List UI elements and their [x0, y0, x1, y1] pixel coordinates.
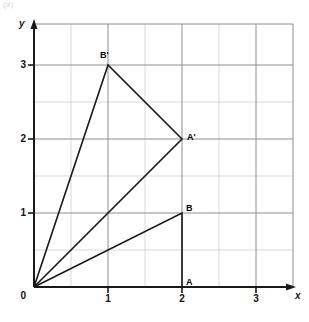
x-tick-label-3: 3	[249, 294, 263, 304]
coordinate-geometry-figure: (a)	[0, 0, 309, 322]
point-label-b-prime: B'	[100, 51, 109, 60]
plot-canvas	[0, 0, 309, 322]
point-label-b: B	[186, 204, 193, 213]
y-tick-label-2: 2	[12, 134, 26, 144]
y-tick-label-3: 3	[12, 60, 26, 70]
y-tick-label-1: 1	[12, 208, 26, 218]
point-label-a-prime: A'	[187, 133, 196, 142]
point-label-a: A	[186, 278, 193, 287]
y-axis-label: y	[19, 19, 25, 29]
origin-label: 0	[12, 291, 26, 301]
x-axis-label: x	[295, 291, 301, 301]
x-tick-label-2: 2	[175, 294, 189, 304]
y-axis	[31, 19, 38, 287]
x-tick-label-1: 1	[101, 294, 115, 304]
